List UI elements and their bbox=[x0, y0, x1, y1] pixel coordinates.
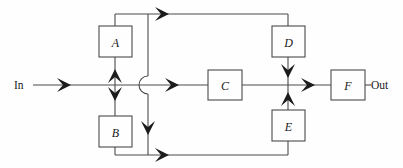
block-e-label: E bbox=[284, 120, 293, 134]
block-b[interactable]: B bbox=[99, 116, 132, 147]
input-port-label: In bbox=[14, 79, 24, 91]
block-diagram-canvas: A B C D E F In Out bbox=[0, 0, 403, 168]
output-port-label: Out bbox=[371, 79, 389, 91]
block-c-label: C bbox=[221, 79, 230, 93]
block-d-label: D bbox=[283, 36, 293, 50]
block-a-label: A bbox=[111, 36, 120, 50]
block-f[interactable]: F bbox=[331, 70, 365, 100]
block-diagram-svg: A B C D E F In Out bbox=[0, 0, 403, 168]
block-e[interactable]: E bbox=[272, 110, 305, 141]
block-a[interactable]: A bbox=[99, 26, 132, 57]
block-b-label: B bbox=[112, 126, 120, 140]
block-d[interactable]: D bbox=[272, 26, 305, 57]
block-f-label: F bbox=[343, 79, 352, 93]
block-c[interactable]: C bbox=[208, 70, 242, 100]
